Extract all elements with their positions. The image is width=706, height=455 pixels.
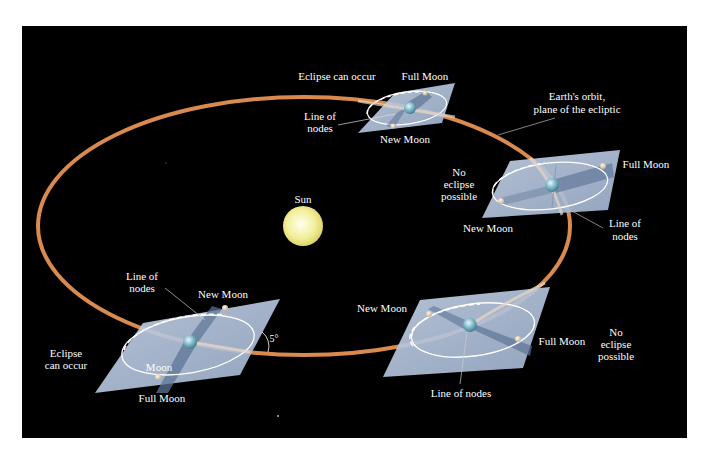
new-moon-label: New Moon bbox=[463, 222, 513, 234]
full-moon-icon bbox=[515, 336, 521, 342]
condition-label-1: Eclipse bbox=[50, 347, 82, 359]
new-moon-icon bbox=[222, 305, 228, 311]
condition-label-2: eclipse bbox=[444, 178, 475, 190]
star-dot bbox=[277, 415, 279, 417]
full-moon-label: Full Moon bbox=[539, 335, 586, 347]
new-moon-icon bbox=[426, 311, 432, 317]
condition-label-2: eclipse bbox=[601, 338, 632, 350]
moon-label: Moon bbox=[146, 361, 173, 373]
earth-icon bbox=[463, 318, 477, 332]
line-of-nodes-label-2: nodes bbox=[129, 282, 155, 294]
lunar-nodes-diagram: Sun Earth's orbit, plane of the ecliptic… bbox=[0, 0, 706, 455]
condition-label-2: can occur bbox=[45, 359, 88, 371]
condition-label-1: No bbox=[452, 166, 466, 178]
line-of-nodes-label-2: nodes bbox=[307, 122, 333, 134]
new-moon-icon bbox=[498, 198, 504, 204]
star-dot bbox=[165, 162, 166, 163]
orbit-label-line1: Earth's orbit, bbox=[549, 90, 606, 102]
condition-label-3: possible bbox=[598, 350, 634, 362]
new-moon-icon bbox=[391, 124, 396, 129]
full-moon-label: Full Moon bbox=[139, 392, 186, 404]
moon-icon bbox=[155, 374, 161, 380]
sun-icon bbox=[283, 206, 323, 246]
line-of-nodes-label: Line of nodes bbox=[431, 387, 491, 399]
earth-icon bbox=[545, 178, 559, 192]
line-of-nodes-label-1: Line of bbox=[609, 217, 641, 229]
line-of-nodes-label-1: Line of bbox=[304, 110, 336, 122]
inclination-label: 5° bbox=[270, 333, 279, 344]
full-moon-icon bbox=[423, 91, 428, 96]
line-of-nodes-label-1: Line of bbox=[126, 270, 158, 282]
sun-label: Sun bbox=[294, 193, 312, 205]
line-of-nodes-label-2: nodes bbox=[612, 230, 638, 242]
condition-label-1: No bbox=[609, 326, 623, 338]
condition-label-3: possible bbox=[441, 190, 477, 202]
full-moon-label: Full Moon bbox=[623, 158, 670, 170]
condition-label: Eclipse can occur bbox=[298, 70, 376, 82]
earth-icon bbox=[404, 102, 416, 114]
full-moon-icon bbox=[600, 163, 606, 169]
orbit-label-line2: plane of the ecliptic bbox=[533, 103, 620, 115]
new-moon-label: New Moon bbox=[198, 288, 248, 300]
new-moon-label: New Moon bbox=[357, 302, 407, 314]
new-moon-label: New Moon bbox=[380, 133, 430, 145]
earth-icon bbox=[183, 335, 197, 349]
full-moon-label: Full Moon bbox=[402, 70, 449, 82]
